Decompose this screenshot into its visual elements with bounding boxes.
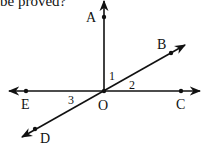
label-o: O [98,98,108,113]
angle-label-1: 1 [109,69,115,83]
point-o [102,89,106,93]
point-d [33,127,37,131]
label-d: D [40,131,50,146]
label-c: C [176,97,185,112]
point-c [179,89,183,93]
point-e [24,89,28,93]
geometry-diagram: A B C D E O 1 2 3 [0,0,203,148]
point-a [102,15,106,19]
point-b [169,51,173,55]
label-a: A [86,10,97,25]
label-e: E [21,97,30,112]
label-b: B [157,37,166,52]
angle-label-3: 3 [68,93,74,107]
angle-label-2: 2 [129,78,135,92]
